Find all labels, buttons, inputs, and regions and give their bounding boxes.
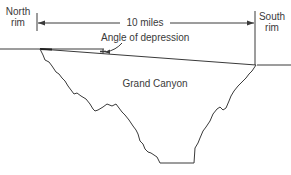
distance-label: 10 miles — [126, 17, 163, 28]
south-rim-label: South — [259, 11, 285, 22]
canyon-outline — [40, 49, 256, 163]
arrowhead-right-icon — [247, 21, 254, 26]
grand-canyon-label: Grand Canyon — [122, 78, 187, 89]
arrowhead-left-icon — [38, 21, 45, 26]
observer-marker — [40, 49, 52, 50]
line-of-sight — [40, 49, 256, 65]
north-rim-label: North — [6, 6, 30, 17]
angle-pointer-arrowhead-icon — [105, 50, 110, 55]
north-rim-label-2: rim — [11, 17, 25, 28]
south-rim-label-2: rim — [265, 22, 279, 33]
grand-canyon-diagram: North rim South rim 10 miles Angle of de… — [0, 0, 291, 175]
angle-of-depression-label: Angle of depression — [101, 32, 189, 43]
